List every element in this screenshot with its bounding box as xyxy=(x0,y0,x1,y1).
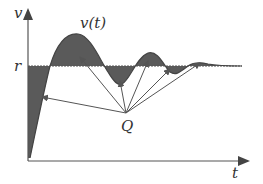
arrow-5 xyxy=(126,69,170,113)
curve-label: v(t) xyxy=(80,14,106,32)
error-area-fill xyxy=(28,34,240,158)
step-response-diagram: v v(t) r Q t xyxy=(0,0,263,184)
y-axis-label: v xyxy=(14,4,23,22)
arrow-3 xyxy=(120,81,126,113)
reference-label: r xyxy=(14,57,22,75)
x-axis-label: t xyxy=(232,164,239,182)
q-point-label: Q xyxy=(121,117,133,135)
arrow-1 xyxy=(42,97,126,113)
